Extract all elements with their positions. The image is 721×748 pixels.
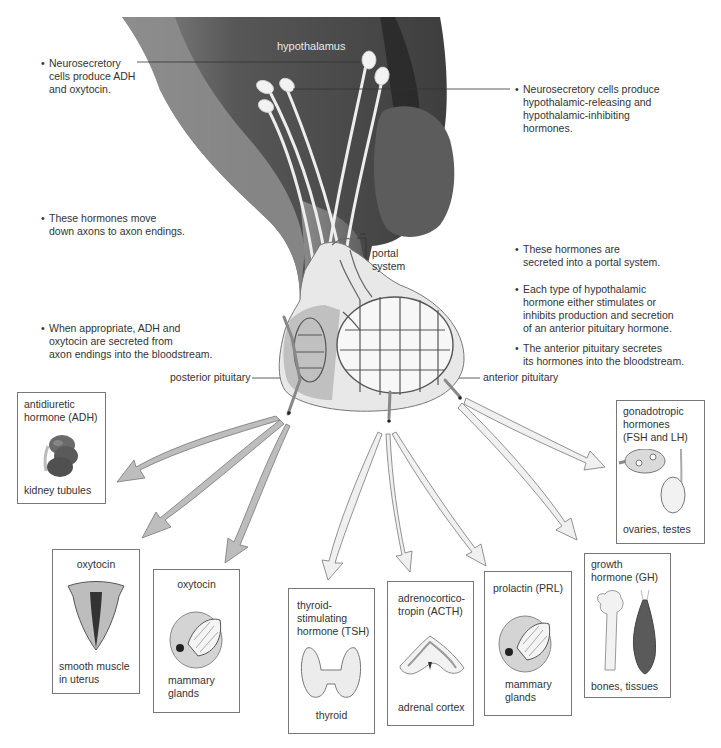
- ovary-testis-icon: [617, 449, 705, 517]
- card-hormone-label: gonadotropic hormones (FSH and LH): [623, 405, 700, 444]
- posterior-pituitary-label: posterior pituitary: [170, 371, 251, 383]
- posterior-arrows: [117, 416, 290, 563]
- arrow-to-adh: [117, 416, 280, 482]
- card-hormone-label: growth hormone (GH): [591, 558, 666, 584]
- note-releasing-inhibiting: Neurosecretory cells produce hypothalami…: [523, 83, 660, 135]
- note-anterior-secretion: The anterior pituitary secretes its horm…: [523, 342, 684, 368]
- note-stimulate-inhibit: Each type of hypothalamic hormone either…: [523, 283, 674, 335]
- portal-system-label: portal system: [372, 247, 405, 273]
- kidney-icon: [38, 431, 86, 481]
- note-portal-system: These hormones are secreted into a porta…: [523, 243, 660, 269]
- card-target-label: smooth muscle in uterus: [59, 660, 135, 686]
- note-adh-oxytocin-production: Neurosecretory cells produce ADH and oxy…: [49, 57, 135, 96]
- thyroid-icon: [297, 646, 365, 702]
- adrenal-icon: [398, 634, 466, 678]
- note-posterior-secretion: When appropriate, ADH and oxytocin are s…: [49, 322, 212, 361]
- mammary-gland-icon: [168, 608, 226, 670]
- card-hormone-label: thyroid- stimulating hormone (TSH): [297, 599, 370, 638]
- card-hormone-label: adrenocortico- tropin (ACTH): [398, 592, 469, 618]
- card-oxytocin-mammary: oxytocin mammary glands: [153, 569, 240, 713]
- note-axon-transport: These hormones move down axons to axon e…: [49, 212, 185, 238]
- bone-muscle-icon: [591, 590, 667, 676]
- uterus-icon: [65, 578, 127, 653]
- mammary-gland-icon: [497, 612, 555, 674]
- card-hormone-label: oxytocin: [53, 558, 139, 571]
- card-target-label: bones, tissues: [591, 680, 666, 693]
- card-target-label: kidney tubules: [24, 484, 101, 497]
- card-hormone-label: oxytocin: [154, 578, 239, 591]
- card-tsh-thyroid: thyroid- stimulating hormone (TSH) thyro…: [288, 588, 375, 734]
- card-target-label: ovaries, testes: [623, 523, 700, 536]
- card-acth-adrenal: adrenocortico- tropin (ACTH) adrenal cor…: [387, 581, 474, 726]
- card-gonadotropins-gonads: gonadotropic hormones (FSH and LH) ovari…: [616, 400, 705, 544]
- arrow-to-tsh: [322, 432, 382, 580]
- card-target-label: adrenal cortex: [398, 701, 469, 714]
- card-hormone-label: antidiuretic hormone (ADH): [24, 398, 101, 424]
- arrow-to-prl: [392, 432, 486, 566]
- card-target-label: thyroid: [289, 709, 374, 722]
- card-target-label: mammary glands: [168, 674, 235, 700]
- anterior-pituitary-label: anterior pituitary: [483, 371, 558, 383]
- card-adh-kidney: antidiuretic hormone (ADH) kidney tubule…: [17, 392, 106, 504]
- card-gh-bones: growth hormone (GH) bones, tissues: [584, 553, 671, 698]
- card-hormone-label: prolactin (PRL): [493, 582, 567, 595]
- card-oxytocin-uterus: oxytocin smooth muscle in uterus: [52, 549, 140, 694]
- anterior-arrows: [322, 398, 605, 580]
- card-prl-mammary: prolactin (PRL) mammary glands: [484, 571, 572, 716]
- hypothalamus-label: hypothalamus: [277, 40, 346, 52]
- card-target-label: mammary glands: [505, 678, 567, 704]
